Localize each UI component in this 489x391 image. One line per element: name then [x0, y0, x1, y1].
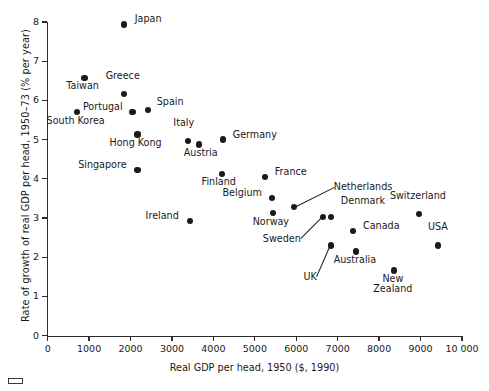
y-tick	[42, 139, 47, 140]
data-point[interactable]	[350, 228, 356, 234]
x-tick-label: 10 000	[432, 344, 489, 354]
x-tick	[296, 336, 297, 341]
point-label: Singapore	[0, 160, 127, 171]
point-label: Austria	[141, 148, 261, 159]
point-label: France	[275, 167, 307, 178]
point-label: USA	[378, 222, 489, 233]
scatter-chart: 012345678 010002000300040005000600070008…	[0, 0, 489, 391]
point-label: Ireland	[0, 211, 179, 222]
point-label: Finland	[159, 177, 279, 188]
data-point[interactable]	[129, 109, 135, 115]
point-label: Portugal	[0, 102, 123, 113]
point-label: Switzerland	[358, 191, 478, 202]
x-tick	[130, 336, 131, 341]
y-tick	[42, 61, 47, 62]
data-point[interactable]	[416, 211, 422, 217]
data-point[interactable]	[262, 174, 268, 180]
point-label: UK	[0, 272, 317, 283]
corner-mark	[8, 378, 23, 384]
data-point[interactable]	[220, 136, 226, 142]
x-tick	[213, 336, 214, 341]
x-tick	[461, 336, 462, 341]
point-label: South Korea	[16, 116, 136, 127]
data-point[interactable]	[328, 214, 334, 220]
data-point[interactable]	[145, 107, 151, 113]
x-tick	[337, 336, 338, 341]
point-label: Australia	[295, 255, 415, 266]
y-axis-title: Rate of growth of real GDP per head, 195…	[20, 11, 31, 341]
data-point[interactable]	[435, 242, 441, 248]
x-tick	[254, 336, 255, 341]
x-tick	[88, 336, 89, 341]
point-label: Spain	[157, 97, 184, 108]
x-tick	[420, 336, 421, 341]
point-label: Germany	[233, 130, 277, 141]
y-tick	[42, 100, 47, 101]
data-point[interactable]	[121, 91, 127, 97]
point-label: Sweden	[0, 234, 301, 245]
y-axis-line	[47, 22, 48, 337]
label-leader-line	[294, 187, 334, 208]
point-label: Taiwan	[23, 81, 143, 92]
y-tick	[42, 21, 47, 22]
data-point[interactable]	[187, 218, 193, 224]
x-tick	[47, 336, 48, 341]
x-axis-title: Real GDP per head, 1950 ($, 1990)	[47, 362, 462, 373]
point-label: Greece	[63, 71, 183, 82]
y-tick	[42, 178, 47, 179]
data-point[interactable]	[134, 167, 140, 173]
point-label: Belgium	[0, 188, 262, 199]
point-label: Japan	[135, 14, 162, 25]
point-label: NewZealand	[333, 274, 453, 295]
data-point[interactable]	[121, 21, 127, 27]
y-tick	[42, 296, 47, 297]
data-point[interactable]	[269, 195, 275, 201]
x-tick	[171, 336, 172, 341]
point-label: Italy	[124, 118, 244, 129]
point-label: Hong Kong	[76, 138, 196, 149]
x-tick	[378, 336, 379, 341]
y-tick	[42, 257, 47, 258]
